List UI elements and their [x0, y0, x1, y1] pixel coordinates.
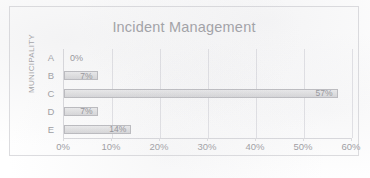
bar-value-label: 0% — [70, 53, 83, 62]
y-axis-tick-label: E — [43, 120, 59, 138]
x-axis-tick-mark — [207, 138, 208, 141]
x-axis-tick-label: 10% — [101, 141, 120, 152]
gridline — [352, 49, 353, 138]
x-axis-tick-mark — [111, 138, 112, 141]
bar-e: 14% — [64, 125, 131, 134]
x-axis-tick-mark — [159, 138, 160, 141]
bar-row: 0% — [64, 49, 351, 67]
bar-series: 0% 7% 57% 7% 14% — [64, 49, 351, 138]
y-axis-tick-label: B — [43, 67, 59, 85]
x-axis-tick-label: 0% — [56, 141, 70, 152]
x-axis-tick-labels: 0%10%20%30%40%50%60% — [63, 141, 351, 157]
bar-value-label: 7% — [80, 107, 92, 116]
y-axis-tick-label: A — [43, 49, 59, 67]
bar-row: 57% — [64, 85, 351, 103]
bar-row: 7% — [64, 102, 351, 120]
x-axis-tick-label: 60% — [341, 141, 360, 152]
y-axis-category-labels: A B C D E — [43, 49, 59, 138]
x-axis-tick-mark — [63, 138, 64, 141]
chart-container: Incident Management MUNICIPALITY A B C D… — [9, 6, 359, 156]
bar-b: 7% — [64, 71, 98, 80]
x-axis-tick-mark — [351, 138, 352, 141]
chart-title: Incident Management — [10, 19, 358, 35]
x-axis-tick-mark — [303, 138, 304, 141]
x-axis-tick-label: 40% — [245, 141, 264, 152]
x-axis-tick-label: 30% — [197, 141, 216, 152]
bar-row: 14% — [64, 120, 351, 138]
bar-value-label: 57% — [316, 89, 333, 98]
x-axis-tick-label: 20% — [149, 141, 168, 152]
plot-area: 0% 7% 57% 7% 14% — [63, 49, 351, 138]
y-axis-title: MUNICIPALITY — [27, 21, 36, 107]
bar-value-label: 14% — [109, 125, 126, 134]
y-axis-tick-label: C — [43, 85, 59, 103]
y-axis-tick-label: D — [43, 102, 59, 120]
bar-d: 7% — [64, 107, 98, 116]
bar-row: 7% — [64, 67, 351, 85]
bar-c: 57% — [64, 89, 338, 98]
x-axis-tick-label: 50% — [293, 141, 312, 152]
bar-value-label: 7% — [80, 71, 92, 80]
x-axis-tick-mark — [255, 138, 256, 141]
